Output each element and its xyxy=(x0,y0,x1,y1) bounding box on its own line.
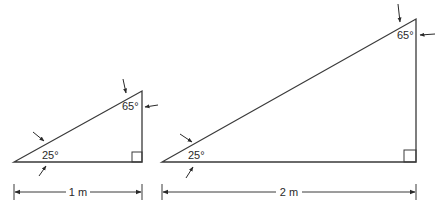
small-triangle: 25° 65° 1 m xyxy=(14,79,158,200)
large-triangle: 25° 65° 2 m xyxy=(162,4,435,200)
large-angle-25-label: 25° xyxy=(188,149,205,161)
similar-triangles-diagram: 25° 65° 1 m 25° 65° xyxy=(0,0,442,208)
large-right-angle-mark xyxy=(404,150,416,162)
large-arrow-below-icon xyxy=(186,167,193,178)
large-triangle-outline xyxy=(162,19,416,162)
small-arrow-upper-left-icon xyxy=(33,132,44,141)
small-arrow-below-icon xyxy=(39,166,46,176)
large-arrow-top-down-icon xyxy=(398,4,400,22)
small-arrow-right-left-icon xyxy=(145,105,158,107)
large-base-length-label: 2 m xyxy=(280,186,298,198)
small-right-angle-mark xyxy=(132,152,142,162)
large-arrow-right-left-icon xyxy=(420,34,435,35)
large-angle-65-label: 65° xyxy=(397,29,414,41)
small-base-length-label: 1 m xyxy=(69,186,87,198)
diagram-svg: 25° 65° 1 m 25° 65° xyxy=(0,0,442,208)
small-angle-25-label: 25° xyxy=(42,149,59,161)
small-arrow-top-down-icon xyxy=(123,79,126,93)
small-angle-65-label: 65° xyxy=(122,100,139,112)
large-arrow-upper-left-icon xyxy=(180,134,192,142)
